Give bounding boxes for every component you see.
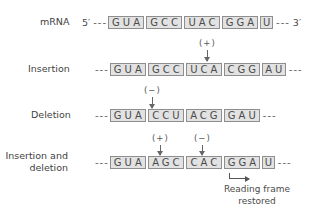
reading-frame-arrow-icon	[229, 178, 249, 179]
codon: GUA	[110, 156, 146, 169]
codon: GCC	[148, 63, 184, 76]
codon: CGG	[224, 63, 260, 76]
insertion-arrow-icon	[207, 50, 208, 61]
three-prime-label: 3′	[293, 17, 301, 28]
right-dash: ---	[289, 64, 303, 75]
codon: GCC	[146, 16, 182, 29]
deletion-sequence: --- GUA CCU ACG GAU ---	[95, 108, 277, 123]
row-label-mrna: mRNA	[40, 16, 69, 27]
codon: UCA	[186, 63, 222, 76]
row-label-deletion: Deletion	[31, 109, 71, 120]
reading-frame-note: Reading frame restored	[222, 183, 292, 207]
insertion-marker: (+)	[152, 133, 169, 143]
label-line-2: deletion	[4, 162, 68, 174]
codon: GAU	[224, 109, 260, 122]
left-dash: ---	[95, 64, 109, 75]
codon: CAC	[186, 156, 222, 169]
codon: U	[260, 16, 273, 29]
note-line-1: Reading frame	[222, 183, 292, 195]
right-dash: ---	[276, 17, 290, 28]
deletion-arrow-icon	[152, 97, 153, 108]
left-dash: ---	[95, 110, 109, 121]
right-dash: ---	[263, 110, 277, 121]
insertion-marker: (+)	[199, 38, 216, 48]
codon: UAC	[184, 16, 220, 29]
left-dash: ---	[93, 17, 107, 28]
codon: AU	[262, 63, 286, 76]
deletion-arrow-icon	[202, 145, 203, 155]
insertion-arrow-icon	[160, 145, 161, 155]
codon: GUA	[110, 109, 146, 122]
row-label-insertion-deletion: Insertion and deletion	[4, 150, 68, 174]
label-line-1: Insertion and	[4, 150, 68, 162]
codon: GUA	[108, 16, 144, 29]
five-prime-label: 5′	[82, 17, 90, 28]
deletion-marker: (−)	[144, 85, 161, 95]
note-line-2: restored	[222, 195, 292, 207]
codon: AGC	[148, 156, 184, 169]
row-label-insertion: Insertion	[28, 63, 70, 74]
mrna-sequence: 5′ --- GUA GCC UAC GGA U --- 3′	[82, 15, 301, 30]
codon: CCU	[148, 109, 184, 122]
left-dash: ---	[95, 157, 109, 168]
deletion-marker: (−)	[194, 133, 211, 143]
right-dash: ---	[278, 157, 292, 168]
codon: ACG	[186, 109, 222, 122]
insertion-deletion-sequence: --- GUA AGC CAC GGA U ---	[95, 155, 292, 170]
codon: GUA	[110, 63, 146, 76]
insertion-sequence: --- GUA GCC UCA CGG AU ---	[95, 62, 303, 77]
codon: U	[262, 156, 275, 169]
codon: GGA	[224, 156, 260, 169]
codon: GGA	[222, 16, 258, 29]
